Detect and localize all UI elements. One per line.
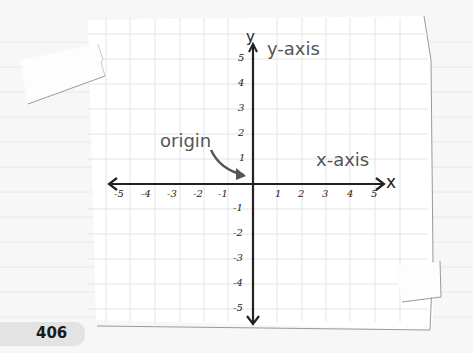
y-tick: 4: [238, 77, 244, 88]
y-tick: 5: [238, 52, 244, 63]
x-tick: -2: [193, 188, 203, 199]
x-tick: -5: [114, 188, 124, 199]
y-tick: -3: [233, 252, 243, 263]
textbook-page: y x y-axis x-axis origin -5 -4 -3 -2 -1 …: [0, 0, 473, 353]
x-tick: 5: [371, 188, 377, 199]
x-tick: 1: [275, 188, 281, 199]
origin-annotation: origin: [160, 130, 211, 151]
y-tick: -5: [233, 302, 243, 313]
x-axis-annotation: x-axis: [316, 149, 369, 170]
y-tick: 3: [238, 102, 244, 113]
x-tick: -3: [167, 188, 177, 199]
x-axis-letter: x: [386, 172, 396, 192]
y-tick: -2: [233, 227, 243, 238]
y-tick: 2: [238, 127, 244, 138]
page-number-tab: 406: [0, 322, 85, 346]
x-tick: 3: [322, 188, 328, 199]
y-tick: 1: [239, 152, 245, 163]
x-tick: -1: [218, 188, 228, 199]
y-axis-letter: y: [246, 28, 255, 46]
y-tick: -1: [233, 202, 243, 213]
x-tick: 2: [298, 188, 304, 199]
y-tick: -4: [233, 277, 243, 288]
x-tick: 4: [347, 188, 353, 199]
y-axis-annotation: y-axis: [267, 38, 320, 59]
x-tick: -4: [141, 188, 151, 199]
page-number: 406: [36, 324, 67, 342]
graph-paper: [0, 0, 473, 353]
